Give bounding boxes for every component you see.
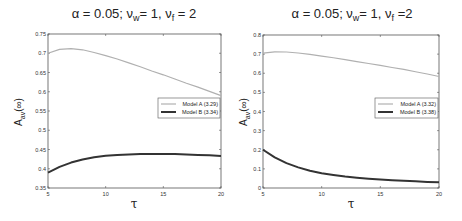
x-axis-label: τ [131,197,138,211]
x-tick-label: 10 [319,191,325,197]
chart-title: α = 0.05; νw= 1, νf = 2 [72,6,197,23]
y-tick-label: 0.5 [38,127,46,133]
y-tick-label: 0.1 [253,166,261,172]
x-tick-label: 15 [160,191,166,197]
y-tick-label: 0.5 [253,89,261,95]
panel-left: α = 0.05; νw= 1, νf = 2 0.350.40.450.50.… [13,6,224,211]
y-tick-label: 0.3 [253,128,261,134]
y-tick-label: 0.2 [253,147,261,153]
y-tick-label: 0.45 [35,147,46,153]
x-axis-label: τ [348,197,355,211]
y-axis-label: Aav(∞) [13,98,26,126]
y-tick-label: 0.6 [253,70,261,76]
y-tick-label: 0.6 [38,89,46,95]
plot-area: 00.10.20.30.40.50.60.70.85101520Model A … [253,32,442,197]
y-tick-label: 0.4 [253,109,261,115]
x-tick-label: 15 [377,191,383,197]
x-tick-label: 10 [103,191,109,197]
y-tick-label: 0.35 [35,185,46,191]
y-tick-label: 0.65 [35,70,46,76]
legend: Model A (3.32)Model B (3.38) [375,98,438,118]
x-tick-label: 5 [46,191,49,197]
x-tick-label: 5 [261,191,264,197]
legend-label: Model B (3.38) [400,109,436,115]
legend-label: Model A (3.32) [401,101,437,107]
legend-label: Model B (3.34) [182,109,218,115]
y-tick-label: 0.4 [38,166,46,172]
figure: α = 0.05; νw= 1, νf = 2 0.350.40.450.50.… [0,0,462,221]
legend-label: Model A (3.29) [183,101,219,107]
panel-right: α = 0.05; νw= 1, νf =2 00.10.20.30.40.50… [238,6,442,211]
y-axis-label: Aav(∞) [238,98,251,126]
y-tick-label: 0.7 [253,51,261,57]
y-tick-label: 0.55 [35,108,46,114]
y-tick-label: 0.8 [253,32,261,38]
legend: Model A (3.29)Model B (3.34) [158,98,220,118]
plot-area: 0.350.40.450.50.550.60.650.70.755101520M… [35,31,224,197]
x-tick-label: 20 [218,191,224,197]
chart-title: α = 0.05; νw= 1, νf =2 [292,6,413,23]
y-tick-label: 0.7 [38,50,46,56]
x-tick-label: 20 [436,191,442,197]
y-tick-label: 0.75 [35,31,46,37]
